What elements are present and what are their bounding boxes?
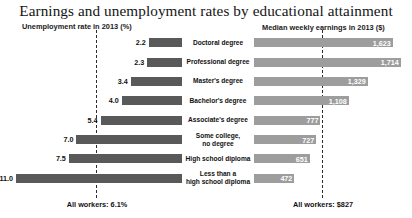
unemployment-bar <box>147 58 182 67</box>
left-axis-heading: Unemployment rate in 2013 (%) <box>22 22 132 31</box>
earnings-bar: 1,108 <box>254 96 349 105</box>
chart-title: Earnings and unemployment rates by educa… <box>0 2 412 20</box>
earnings-bar: 472 <box>254 174 294 183</box>
earnings-bar: 651 <box>254 154 310 163</box>
earnings-value-label: 1,329 <box>348 77 366 86</box>
category-label: High school diploma <box>182 155 254 163</box>
earnings-bar: 1,623 <box>254 38 393 47</box>
category-row: Some college,no degree <box>182 130 254 149</box>
earnings-row: 777 <box>254 111 408 130</box>
category-label: Less than ahigh school diploma <box>182 170 254 186</box>
unemployment-value-label: 5.4 <box>88 116 98 125</box>
earnings-value-label: 727 <box>302 135 314 144</box>
unemployment-value-label: 2.2 <box>136 38 146 47</box>
earnings-bar: 1,329 <box>254 77 368 86</box>
earnings-row: 1,108 <box>254 91 408 110</box>
earnings-value-label: 1,623 <box>373 38 391 47</box>
unemployment-row: 2.2 <box>4 33 182 52</box>
earnings-row: 727 <box>254 130 408 149</box>
category-row: Doctoral degree <box>182 33 254 52</box>
category-label: Doctoral degree <box>182 39 254 47</box>
earnings-value-label: 777 <box>306 116 318 125</box>
unemployment-panel: 2.22.33.44.05.47.07.511.0 <box>4 33 182 188</box>
earnings-bar: 1,714 <box>254 58 401 67</box>
unemployment-bar <box>16 174 182 183</box>
unemployment-bar <box>149 38 182 47</box>
unemployment-row: 4.0 <box>4 91 182 110</box>
unemployment-row: 2.3 <box>4 52 182 71</box>
unemployment-value-label: 11.0 <box>0 174 13 183</box>
earnings-panel: 1,6231,7141,3291,108777727651472 <box>254 33 408 188</box>
unemployment-bar <box>76 135 182 144</box>
unemployment-row: 5.4 <box>4 111 182 130</box>
category-row: High school diploma <box>182 149 254 168</box>
earnings-value-label: 651 <box>296 154 308 163</box>
unemployment-bar <box>101 116 182 125</box>
category-label: Master's degree <box>182 77 254 85</box>
unemployment-bar <box>131 77 182 86</box>
earnings-row: 651 <box>254 149 408 168</box>
earnings-row: 472 <box>254 169 408 188</box>
earnings-bar: 777 <box>254 116 320 125</box>
unemployment-row: 11.0 <box>4 169 182 188</box>
unemployment-row: 3.4 <box>4 72 182 91</box>
unemployment-value-label: 7.5 <box>56 154 66 163</box>
category-label: Professional degree <box>182 58 254 66</box>
category-row: Professional degree <box>182 52 254 71</box>
right-axis-heading: Median weekly earnings in 2013 ($) <box>262 23 385 32</box>
category-label: Bachelor's degree <box>182 97 254 105</box>
unemployment-value-label: 2.3 <box>134 58 144 67</box>
footnote-all-workers-unemployment: All workers: 6.1% <box>67 200 127 209</box>
earnings-value-label: 1,108 <box>329 96 347 105</box>
footnote-all-workers-earnings: All workers: $827 <box>293 200 353 209</box>
category-row: Less than ahigh school diploma <box>182 169 254 188</box>
unemployment-row: 7.0 <box>4 130 182 149</box>
earnings-row: 1,623 <box>254 33 408 52</box>
chart-container: Earnings and unemployment rates by educa… <box>0 0 412 218</box>
unemployment-bar <box>69 154 182 163</box>
category-row: Master's degree <box>182 72 254 91</box>
unemployment-value-label: 7.0 <box>63 135 73 144</box>
earnings-row: 1,714 <box>254 52 408 71</box>
earnings-bar: 727 <box>254 135 316 144</box>
category-label-panel: Doctoral degreeProfessional degreeMaster… <box>182 33 254 188</box>
earnings-value-label: 472 <box>280 174 292 183</box>
unemployment-value-label: 4.0 <box>109 96 119 105</box>
earnings-value-label: 1,714 <box>381 58 399 67</box>
unemployment-value-label: 3.4 <box>118 77 128 86</box>
category-label: Associate's degree <box>182 116 254 124</box>
category-label: Some college,no degree <box>182 132 254 148</box>
category-row: Associate's degree <box>182 111 254 130</box>
unemployment-row: 7.5 <box>4 149 182 168</box>
unemployment-bar <box>122 96 182 105</box>
earnings-row: 1,329 <box>254 72 408 91</box>
category-row: Bachelor's degree <box>182 91 254 110</box>
